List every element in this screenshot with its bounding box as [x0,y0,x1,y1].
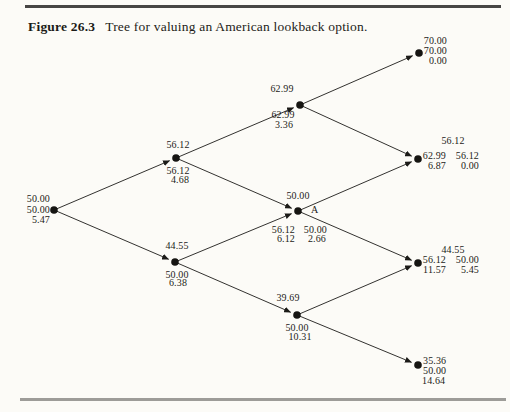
node-uu-value: 3.36 [275,120,293,130]
node-d [171,258,179,266]
node-u-stock: 56.12 [166,140,189,150]
node-dd-value: 10.31 [288,332,311,342]
node-uuu-value: 0.00 [401,56,447,66]
edge-uu-uuu [300,56,413,105]
node-ud-value2: 2.66 [296,234,326,244]
tree-edges [54,56,413,363]
node-uu [296,101,304,109]
node-udd-value1: 11.57 [416,265,446,275]
node-d-stock: 44.55 [165,241,188,251]
node-root-stock: 50.00 [4,194,50,204]
edge-dd-ddd [297,315,412,362]
node-u [172,154,180,162]
edge-root-u [54,161,170,210]
node-uud-max2: 56.12 [449,151,479,161]
node-ddd [414,361,422,369]
edge-uu-uud [300,105,412,156]
node-dd-stock: 39.69 [276,293,299,303]
node-root [50,206,58,214]
node-uud-value2: 0.00 [449,161,479,171]
node-root-value: 5.47 [4,215,50,225]
edge-root-d [54,210,169,259]
node-ddd-max: 50.00 [423,366,446,376]
edge-u-ud [176,158,292,208]
node-udd-stock: 44.55 [441,245,464,255]
edge-d-dd [175,262,291,312]
figure-page: Figure 26.3Tree for valuing an American … [0,0,510,412]
node-udd-max2: 50.00 [449,255,479,265]
node-udd-value2: 5.45 [449,265,479,275]
node-uud-stock: 56.12 [441,136,464,146]
node-root-max: 50.00 [4,205,50,215]
edge-dd-udd [297,266,412,315]
node-uu-stock: 62.99 [270,84,293,94]
node-ud-stock: 50.00 [286,191,309,201]
node-u-value: 4.68 [171,175,189,185]
node-udd-max1: 56.12 [416,255,446,265]
node-ddd-value: 14.64 [422,376,445,386]
node-d-value: 6.38 [169,278,187,288]
bottom-rule [20,398,506,401]
node-ddd-stock: 35.36 [423,356,446,366]
node-uud-max1: 62.99 [416,151,446,161]
tree-nodes [50,49,423,369]
node-ud-value1: 6.12 [265,234,295,244]
node-ud [294,207,302,215]
node-uud-value1: 6.87 [416,161,446,171]
node-dd [293,311,301,319]
node-ud-marker: A [311,205,318,215]
